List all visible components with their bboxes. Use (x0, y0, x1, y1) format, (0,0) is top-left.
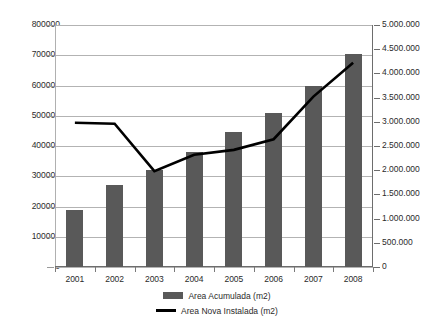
legend-label-area-nova-instalada: Area Nova Instalada (m2) (181, 306, 278, 316)
right-axis-tick-label: 4.500.000 (382, 44, 420, 53)
category-label: 2005 (214, 274, 254, 284)
legend-line-swatch-icon (156, 309, 176, 312)
right-axis-tick-mark (374, 146, 380, 147)
category-label: 2006 (254, 274, 294, 284)
chart-container: 0100000200000300000400000500000600000700… (0, 0, 434, 331)
right-axis-tick-mark (374, 219, 380, 220)
category-label: 2008 (333, 274, 373, 284)
left-axis-tick-mark (47, 237, 54, 238)
category-tick-mark (333, 267, 334, 272)
category-tick-mark (55, 267, 56, 272)
legend-label-area-acumulada: Area Acumulada (m2) (188, 291, 270, 301)
category-label: 2003 (134, 274, 174, 284)
right-axis-tick-mark (374, 122, 380, 123)
category-label: 2004 (174, 274, 214, 284)
category-tick-mark (294, 267, 295, 272)
right-axis-tick-label: 3.500.000 (382, 93, 420, 102)
category-label: 2002 (95, 274, 135, 284)
legend-bar-swatch-icon (163, 292, 183, 299)
category-tick-mark (174, 267, 175, 272)
right-axis-tick-mark (374, 267, 380, 268)
right-axis-tick-label: 0 (382, 262, 387, 271)
category-tick-mark (373, 267, 374, 272)
category-tick-mark (254, 267, 255, 272)
left-axis-tick-mark (47, 267, 54, 268)
legend-entry-area-nova-instalada: Area Nova Instalada (m2) (0, 303, 434, 318)
right-axis-tick-label: 500.000 (382, 238, 413, 247)
category-tick-mark (214, 267, 215, 272)
left-axis-tick-mark (47, 55, 54, 56)
plot-area (55, 25, 373, 267)
left-axis-tick-mark (47, 86, 54, 87)
chart-legend: Area Acumulada (m2) Area Nova Instalada … (0, 288, 434, 318)
legend-entry-area-acumulada: Area Acumulada (m2) (0, 288, 434, 303)
left-axis-tick-label: 600000 (14, 81, 60, 90)
right-axis-tick-mark (374, 25, 380, 26)
right-axis-tick-label: 1.500.000 (382, 189, 420, 198)
right-axis-tick-label: 3.000.000 (382, 117, 420, 126)
right-axis-tick-label: 5.000.000 (382, 20, 420, 29)
category-tick-mark (95, 267, 96, 272)
right-axis-tick-label: 1.000.000 (382, 214, 420, 223)
right-axis-tick-mark (374, 98, 380, 99)
right-axis-tick-label: 4.000.000 (382, 68, 420, 77)
category-label: 2001 (55, 274, 95, 284)
right-axis-tick-mark (374, 49, 380, 50)
right-axis-tick-label: 2.000.000 (382, 165, 420, 174)
right-axis-tick-mark (374, 243, 380, 244)
right-axis-tick-label: 2.500.000 (382, 141, 420, 150)
category-tick-mark (135, 267, 136, 272)
line-series (55, 25, 373, 267)
right-axis-tick-mark (374, 73, 380, 74)
right-axis-tick-mark (374, 170, 380, 171)
left-axis-tick-mark (47, 146, 54, 147)
left-axis-tick-mark (47, 116, 54, 117)
left-axis-tick-label: 200000 (14, 202, 60, 211)
left-axis-tick-mark (47, 176, 54, 177)
right-axis-tick-mark (374, 194, 380, 195)
left-axis-tick-mark (47, 207, 54, 208)
left-axis-tick-mark (47, 25, 54, 26)
line-path (75, 63, 353, 171)
category-label: 2007 (293, 274, 333, 284)
